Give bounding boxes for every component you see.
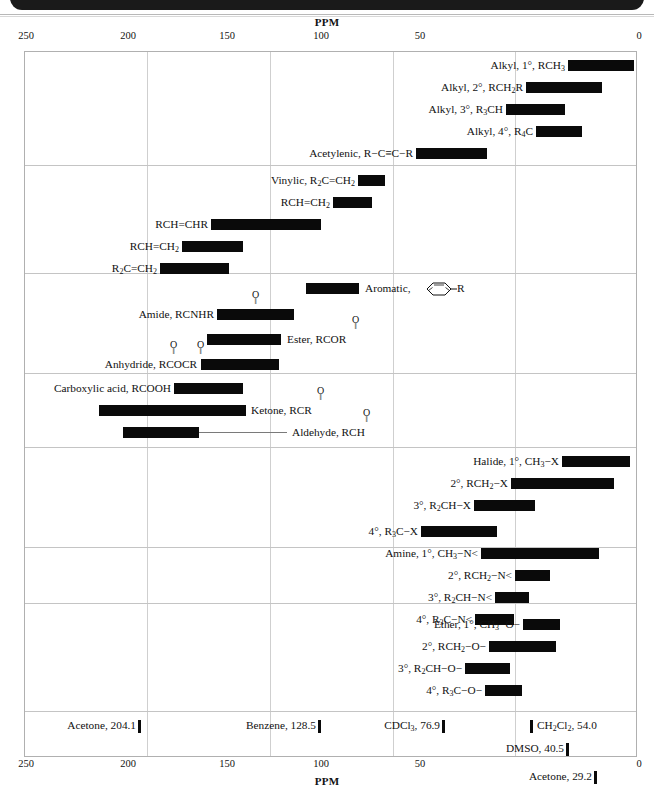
range-bar-aldehyde (123, 427, 199, 438)
range-bar-ether-4 (485, 685, 522, 696)
tick-label-200: 200 (120, 30, 136, 41)
row-vinylic-4: RCH=CH2 (25, 237, 636, 256)
row-alkyl-4: Alkyl, 4°, R4C (25, 122, 636, 141)
range-bar-alkyl-1 (568, 60, 634, 71)
row-alkyl-2: Alkyl, 2°, RCH2R (25, 78, 636, 97)
section-divider-1 (25, 165, 636, 166)
row-label-vinylic-2: RCH=CH2 (281, 194, 330, 214)
range-bar-anhydride (201, 359, 279, 370)
row-anhydride: O‖ O‖ Anhydride, RCOCR (25, 355, 636, 374)
reference-label-acetone-204: Acetone, 204.1 (67, 719, 136, 731)
tick-label-100: 100 (313, 30, 329, 41)
section-divider-4 (25, 447, 636, 448)
range-bar-amide (217, 309, 294, 320)
reference-label-dmso: DMSO, 40.5 (506, 742, 564, 754)
row-amine-1: Amine, 1°, CH3−N< (25, 544, 636, 563)
range-bar-amine-3 (495, 592, 529, 603)
tick-label-250: 250 (18, 30, 34, 41)
range-bar-halide-1 (562, 456, 630, 467)
carbonyl-marker-anhydride-1: O‖ (170, 341, 177, 355)
row-amine-2: 2°, RCH2−N< (25, 566, 636, 585)
row-halide-4: 4°, R3C−X (25, 522, 636, 541)
tick-label-0: 0 (636, 30, 641, 41)
reference-tick-dcm (530, 720, 533, 733)
range-bar-halide-2 (511, 478, 614, 489)
row-carboxylic-acid: Carboxylic acid, RCOOH (25, 379, 636, 398)
row-aldehyde: O‖ Aldehyde, RCH (25, 423, 636, 442)
row-label-alkyl-3: Alkyl, 3°, R3CH (429, 101, 503, 121)
reference-tick-benzene (318, 720, 321, 733)
range-bar-halide-4 (421, 526, 497, 537)
row-vinylic-1: Vinylic, R2C=CH2 (25, 171, 636, 190)
row-ether-2: 2°, RCH2−O− (25, 637, 636, 656)
leader-line-aldehyde (199, 432, 287, 433)
range-bar-carboxylic-acid (174, 383, 243, 394)
row-label-ether-4: 4°, R3C−O− (426, 682, 482, 702)
row-ether-primary: Ether, 1°, CH3−O− (25, 615, 636, 634)
row-label-amine-1: Amine, 1°, CH3−N< (385, 545, 478, 565)
row-label-alkyl-2: Alkyl, 2°, RCH2R (441, 79, 523, 99)
row-amide: O‖ Amide, RCNHR (25, 305, 636, 324)
range-bar-acetylenic (416, 148, 487, 159)
range-bar-vinylic-3 (211, 219, 321, 230)
range-bar-ketone (99, 405, 246, 416)
range-bar-alkyl-2 (526, 82, 602, 93)
row-label-amine-2: 2°, RCH2−N< (448, 567, 512, 587)
row-label-vinylic-3: RCH=CHR (155, 216, 208, 232)
reference-tick-acetone-204 (138, 720, 141, 733)
row-halide-3: 3°, R2CH−X (25, 496, 636, 515)
row-label-halide-4: 4°, R3C−X (369, 523, 418, 543)
row-label-halide-2: 2°, RCH2−X (450, 475, 508, 495)
row-aromatic: Aromatic, R (25, 279, 636, 298)
row-vinylic-5: R2C=CH2 (25, 259, 636, 278)
carbonyl-marker-ester: O‖ (352, 316, 359, 330)
row-ketone: O‖ Ketone, RCR (25, 401, 636, 420)
range-bar-alkyl-4 (536, 126, 582, 137)
row-label-aromatic-r: R (457, 280, 465, 296)
row-label-halide-3: 3°, R2CH−X (413, 497, 471, 517)
range-bar-alkyl-3 (506, 104, 565, 115)
row-label-alkyl-1: Alkyl, 1°, RCH3 (491, 57, 565, 77)
row-label-amide: Amide, RCNHR (139, 306, 214, 322)
reference-tick-dmso (566, 743, 569, 756)
reference-row-1: Acetone, 204.1 Benzene, 128.5 CDCl3, 76.… (25, 717, 636, 737)
row-label-anhydride: Anhydride, RCOCR (105, 356, 197, 372)
row-amine-3: 3°, R2CH−N< (25, 588, 636, 607)
carbonyl-marker-amide: O‖ (252, 291, 259, 305)
axis-title-top: PPM (0, 16, 654, 28)
row-alkyl-3: Alkyl, 3°, R3CH (25, 100, 636, 119)
row-ether-4: 4°, R3C−O− (25, 681, 636, 700)
row-label-ether-2: 2°, RCH2−O− (422, 638, 486, 658)
row-vinylic-3: RCH=CHR (25, 215, 636, 234)
carbonyl-marker-aldehyde: O‖ (363, 409, 370, 423)
row-label-aldehyde: Aldehyde, RCH (292, 424, 365, 440)
axis-ticks-top: 250 200 150 100 50 0 (0, 30, 654, 44)
range-bar-ether-2 (489, 641, 556, 652)
range-bar-amine-1 (481, 548, 599, 559)
reference-row-2: DMSO, 40.5 (25, 740, 636, 760)
row-halide-2: 2°, RCH2−X (25, 474, 636, 493)
row-label-vinylic-5: R2C=CH2 (112, 260, 157, 280)
row-alkyl-1: Alkyl, 1°, RCH3 (25, 56, 636, 75)
reference-label-dcm: CH2Cl2, 54.0 (537, 719, 597, 733)
row-label-aromatic: Aromatic, (365, 280, 411, 296)
row-label-vinylic-4: RCH=CH2 (130, 238, 179, 258)
range-bar-vinylic-2 (333, 197, 372, 208)
row-ether-3: 3°, R2CH−O− (25, 659, 636, 678)
row-vinylic-2: RCH=CH2 (25, 193, 636, 212)
tick-label-150: 150 (219, 30, 235, 41)
row-label-ether-3: 3°, R2CH−O− (398, 660, 462, 680)
row-halide-1: Halide, 1°, CH3−X (25, 452, 636, 471)
section-divider-7 (25, 711, 636, 712)
range-bar-aromatic (306, 283, 359, 294)
range-bar-halide-3 (474, 500, 535, 511)
carbonyl-marker-anhydride-2: O‖ (197, 341, 204, 355)
row-label-ester: Ester, RCOR (287, 331, 346, 347)
range-bar-vinylic-1 (358, 175, 385, 186)
row-label-vinylic-1: Vinylic, R2C=CH2 (271, 172, 355, 192)
row-label-amine-3: 3°, R2CH−N< (428, 589, 492, 609)
row-acetylenic: Acetylenic, R−C≡C−R (25, 144, 636, 163)
range-bar-vinylic-5 (160, 263, 229, 274)
row-label-carboxylic-acid: Carboxylic acid, RCOOH (54, 380, 171, 396)
row-label-acetylenic: Acetylenic, R−C≡C−R (309, 145, 413, 161)
